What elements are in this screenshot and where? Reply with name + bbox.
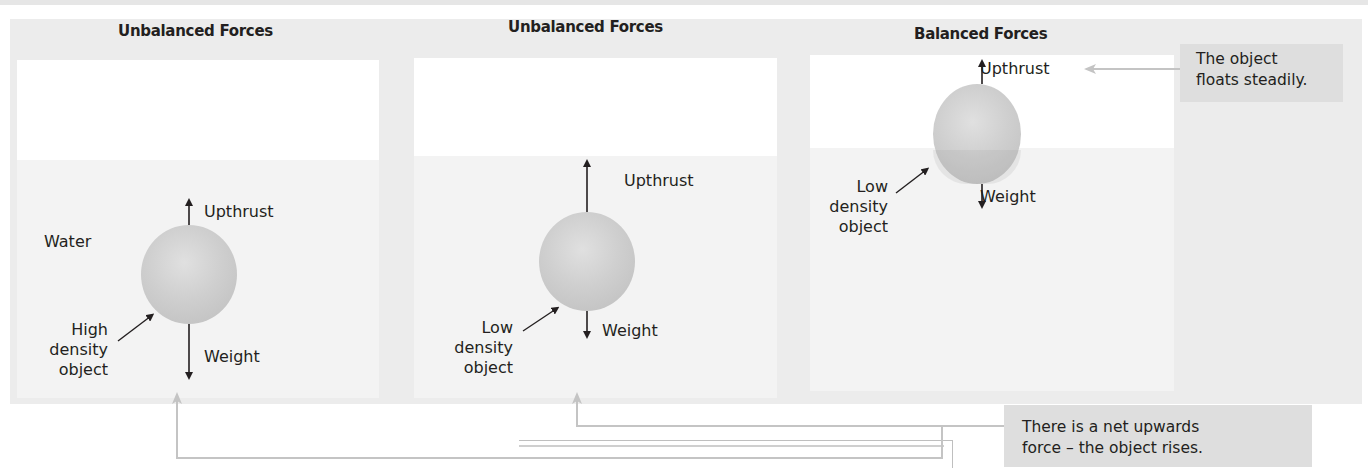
object-label: High density object [40,320,108,380]
weight-label: Weight [204,347,260,367]
low-density-floating-object [933,84,1021,184]
low-density-object [539,212,635,311]
panel-title: Unbalanced Forces [118,22,273,40]
upthrust-label: Upthrust [204,202,274,222]
object-label: Low density object [824,177,888,237]
panel-title: Unbalanced Forces [508,18,663,36]
weight-label: Weight [602,321,658,341]
panel-title: Balanced Forces [914,25,1047,43]
upthrust-label: Upthrust [980,59,1050,79]
object-label: Low density object [445,318,513,378]
caption-divider [519,445,944,447]
callout-floats-steadily: The object floats steadily. [1180,44,1343,102]
top-strip [0,0,1368,5]
weight-label: Weight [980,187,1036,207]
water-label: Water [44,232,91,252]
upthrust-label: Upthrust [624,171,694,191]
high-density-object [141,225,237,324]
callout-net-upwards-force: There is a net upwards force – the objec… [1004,405,1312,467]
